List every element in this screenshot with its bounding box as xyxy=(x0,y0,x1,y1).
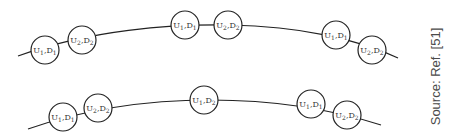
node-top-2: U2,D2 xyxy=(68,26,96,54)
source-note: Source: Ref. [51] xyxy=(426,24,446,128)
node-top-6: U2,D2 xyxy=(358,36,386,64)
chain-diagram: U1,D1 U2,D2 U1,D1 U2,D2 U1,D1 xyxy=(0,0,449,140)
source-note-text: Source: Ref. [51] xyxy=(429,27,444,125)
node-bottom-1: U1,D1 xyxy=(49,103,77,131)
node-bottom-5: U2,D2 xyxy=(333,101,361,129)
node-top-3: U1,D1 xyxy=(171,11,199,39)
node-top-4: U2,D2 xyxy=(214,11,242,39)
top-row-nodes: U1,D1 U2,D2 U1,D1 U2,D2 U1,D1 xyxy=(31,11,386,64)
bottom-row-nodes: U1,D1 U2,D2 U1,D2 U1,D1 U2,D2 xyxy=(49,86,361,131)
node-top-1: U1,D1 xyxy=(31,36,59,64)
node-bottom-4: U1,D1 xyxy=(297,90,325,118)
node-bottom-3: U1,D2 xyxy=(190,86,218,114)
node-top-5: U1,D1 xyxy=(322,21,350,49)
node-bottom-2: U2,D2 xyxy=(84,94,112,122)
